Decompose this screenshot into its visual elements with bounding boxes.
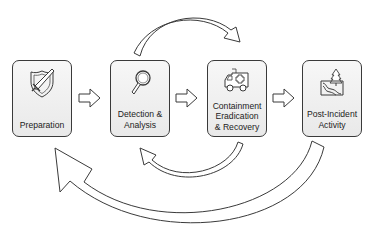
incident-response-diagram: Preparation Detection & Analysis Contain… xyxy=(0,0,377,245)
ambulance-icon xyxy=(208,65,266,97)
arrow-preparation-to-detection xyxy=(79,89,100,107)
stage-post-incident-activity: Post-Incident Activity xyxy=(302,60,362,137)
landscape-tree-icon xyxy=(303,67,361,99)
curved-arrow-post-incident-to-preparation xyxy=(55,141,324,223)
curved-arrow-containment-to-detection xyxy=(140,142,243,177)
stage-label: Detection & Analysis xyxy=(111,109,169,130)
stage-containment-eradication-recovery: Containment Eradication & Recovery xyxy=(207,60,267,137)
stage-label: Preparation xyxy=(13,120,71,131)
stage-label: Post-Incident Activity xyxy=(303,109,361,130)
stage-detection-analysis: Detection & Analysis xyxy=(110,60,170,137)
arrow-detection-to-containment xyxy=(176,89,197,107)
arrow-containment-to-post-incident xyxy=(273,89,294,107)
magnifier-icon xyxy=(111,67,169,99)
stage-label: Containment Eradication & Recovery xyxy=(208,101,266,133)
curved-arrow-detection-to-containment xyxy=(134,18,240,56)
shield-sword-icon xyxy=(13,67,71,99)
stage-preparation: Preparation xyxy=(12,60,72,137)
